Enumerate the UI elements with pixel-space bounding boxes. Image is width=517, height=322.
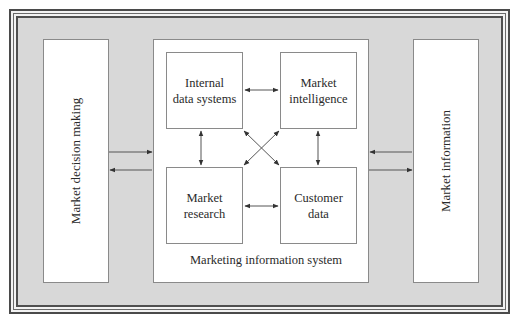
connector-arrows	[0, 0, 517, 322]
